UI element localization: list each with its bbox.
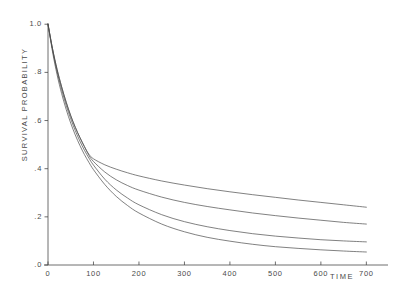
y-tick-label: .2 xyxy=(22,212,42,221)
data-curve xyxy=(48,24,366,242)
y-tick-label: .0 xyxy=(22,260,42,269)
axes-group xyxy=(44,23,388,265)
data-curve xyxy=(48,24,366,207)
data-curve xyxy=(48,24,366,252)
x-tick-label: 500 xyxy=(255,269,295,278)
x-tick-label: 100 xyxy=(73,269,113,278)
data-curve xyxy=(48,24,366,224)
curves-group xyxy=(48,24,366,252)
x-tick-label: 200 xyxy=(119,269,159,278)
y-tick-label: .8 xyxy=(22,67,42,76)
survival-probability-chart: SURVIVAL PROBABILITY TIME .0.2.4.6.81.00… xyxy=(0,0,399,292)
y-tick-label: .4 xyxy=(22,164,42,173)
y-tick-label: 1.0 xyxy=(22,19,42,28)
plot-canvas xyxy=(0,0,399,292)
x-tick-label: 400 xyxy=(210,269,250,278)
x-tick-label: 600 xyxy=(301,269,341,278)
x-tick-label: 300 xyxy=(164,269,204,278)
x-tick-label: 0 xyxy=(28,269,68,278)
y-tick-label: .6 xyxy=(22,116,42,125)
x-tick-label: 700 xyxy=(346,269,386,278)
y-axis-title: SURVIVAL PROBABILITY xyxy=(20,35,29,175)
